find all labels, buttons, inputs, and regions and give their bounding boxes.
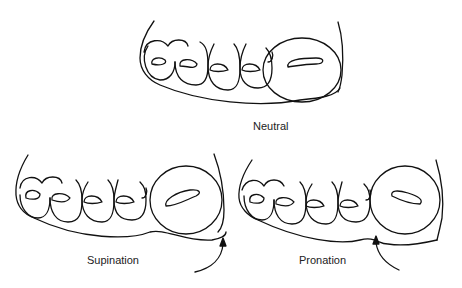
label-pronation: Pronation <box>299 254 346 266</box>
neutral-foot <box>140 21 343 104</box>
label-supination: Supination <box>87 254 139 266</box>
foot-diagram <box>0 0 462 288</box>
label-neutral: Neutral <box>253 120 288 132</box>
